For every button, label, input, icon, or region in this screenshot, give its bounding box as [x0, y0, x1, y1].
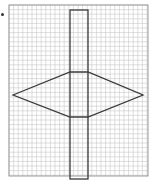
grid-border — [9, 5, 148, 176]
tall-rectangle-shape — [70, 10, 88, 179]
grid-lines — [9, 5, 148, 176]
grid-figure — [0, 0, 159, 188]
